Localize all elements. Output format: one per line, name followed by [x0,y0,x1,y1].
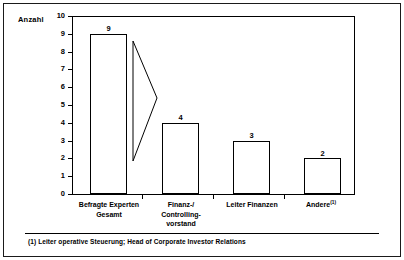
y-tick-7: 7 [68,69,72,70]
y-tick-9: 9 [68,34,72,35]
plot-right-border [354,16,355,195]
bar-finanz-controlling-vorstand[interactable] [162,123,199,194]
y-tick-3: 3 [68,141,72,142]
y-axis-line [72,16,73,195]
category-label-andere-footnote-marker: (1) [330,200,336,205]
category-label-andere-text: Andere [306,201,330,208]
category-label-leiter-finanzen: Leiter Finanzen [214,200,290,210]
y-tick-label-3: 3 [61,136,65,145]
y-tick-label-9: 9 [61,29,65,38]
y-tick-label-5: 5 [61,100,65,109]
y-tick-2: 2 [68,158,72,159]
y-tick-label-4: 4 [61,118,65,127]
x-tick-2 [213,195,214,199]
y-axis-title: Anzahl [18,15,44,24]
y-tick-8: 8 [68,52,72,53]
y-tick-label-0: 0 [61,189,65,198]
x-tick-3 [284,195,285,199]
bar-leiter-finanzen[interactable] [233,141,270,194]
y-tick-label-10: 10 [57,11,65,20]
y-tick-label-8: 8 [61,47,65,56]
y-tick-label-2: 2 [61,153,65,162]
bar-befragte-experten-gesamt[interactable] [90,34,127,194]
bar-value-finanz-controlling-vorstand: 4 [162,113,199,122]
y-tick-4: 4 [68,123,72,124]
plot-top-border [72,16,355,17]
category-label-befragte-experten-gesamt: Befragte Experten Gesamt [72,200,146,219]
footnote-separator [25,233,379,234]
bar-value-andere: 2 [304,149,341,158]
trend-triangle-annotation [132,40,158,162]
y-tick-label-6: 6 [61,82,65,91]
y-tick-6: 6 [68,87,72,88]
bar-value-leiter-finanzen: 3 [233,131,270,140]
y-tick-1: 1 [68,176,72,177]
y-tick-5: 5 [68,105,72,106]
y-tick-0: 0 [68,194,72,195]
chart-screenshot: Anzahl 0 1 2 3 4 5 6 7 8 [0,0,404,260]
y-tick-label-7: 7 [61,64,65,73]
footnote-text: (1) Leiter operative Steuerung; Head of … [28,238,246,245]
y-tick-label-1: 1 [61,171,65,180]
category-label-finanz-controlling-vorstand: Finanz-/ Controlling- vorstand [144,200,218,229]
bar-andere[interactable] [304,158,341,194]
plot-area: 0 1 2 3 4 5 6 7 8 9 10 [72,16,355,195]
y-tick-10: 10 [68,16,72,17]
x-tick-1 [142,195,143,199]
category-label-andere: Andere(1) [284,200,358,210]
bar-value-befragte-experten-gesamt: 9 [90,24,127,33]
